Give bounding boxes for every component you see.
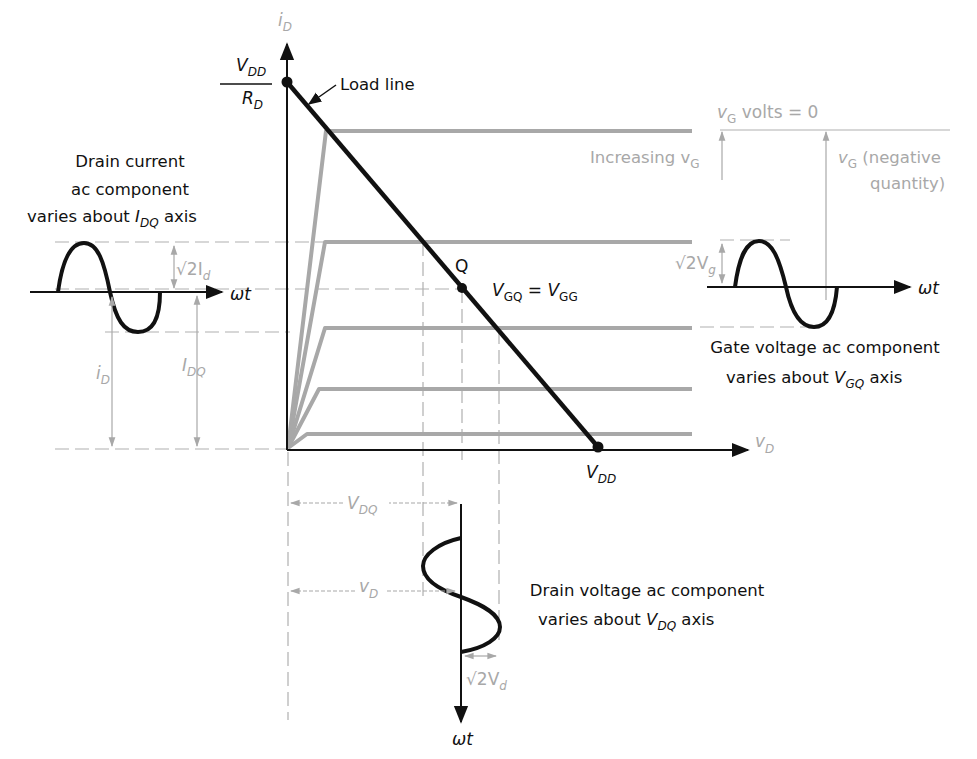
increasing-vg-label: Increasing vG (590, 148, 700, 171)
x-axis-label: vD (755, 431, 774, 456)
svg-text:iD: iD (96, 363, 110, 387)
curve-vg-4 (288, 434, 692, 448)
svg-text:vG volts = 0: vG volts = 0 (717, 102, 818, 126)
svg-text:ωt: ωt (230, 284, 252, 304)
y-axis-label: iD (278, 10, 292, 34)
svg-text:ωt: ωt (918, 278, 940, 298)
gate-voltage-waveform: ωt √2Vg Gate voltage ac component varies… (675, 241, 940, 391)
svg-text:varies about IDQ axis: varies about IDQ axis (27, 207, 197, 230)
drain-voltage-waveform: ωt VDQ vD √2Vd Drain voltage ac componen… (291, 490, 765, 749)
drain-current-sine (58, 243, 160, 332)
q-point-equation: VGQ = VGG (492, 280, 578, 304)
svg-text:Drain current: Drain current (75, 152, 185, 171)
svg-text:varies about VGQ axis: varies about VGQ axis (726, 368, 902, 391)
svg-text:varies about VDQ axis: varies about VDQ axis (538, 610, 714, 633)
svg-text:Drain voltage ac component: Drain voltage ac component (530, 581, 765, 600)
svg-text:ac component: ac component (71, 180, 189, 199)
vg-negative-label: vG (negative (838, 148, 941, 171)
curve-vg-1 (288, 242, 692, 448)
svg-text:√2Vg: √2Vg (675, 253, 716, 277)
svg-text:ωt: ωt (452, 729, 474, 749)
svg-text:√2Id: √2Id (176, 259, 211, 283)
load-line-y-intercept-dot (282, 77, 293, 88)
svg-text:Gate voltage ac component: Gate voltage ac component (710, 338, 940, 357)
svg-text:quantity): quantity) (870, 174, 945, 193)
svg-text:IDQ: IDQ (182, 355, 206, 379)
gate-voltage-sine (735, 241, 837, 327)
y-intercept-label: VDD RD (220, 55, 272, 112)
svg-text:√2Vd: √2Vd (466, 669, 507, 693)
svg-text:RD: RD (242, 88, 263, 112)
drain-current-waveform: Drain current ac component varies about … (27, 152, 252, 446)
q-point-label: Q (455, 256, 468, 276)
svg-text:VDD: VDD (236, 55, 266, 79)
load-line-label: Load line (340, 75, 415, 94)
fet-load-line-diagram: iD vD VDD RD VDD Load line Q VGQ = VGG v… (0, 0, 977, 759)
load-line (287, 82, 598, 447)
q-point-dot (457, 283, 467, 293)
load-line-pointer (309, 85, 336, 104)
curve-vg-3 (288, 389, 692, 448)
x-intercept-label: VDD (586, 462, 616, 486)
load-line-x-intercept-dot (593, 442, 604, 453)
projection-lines (55, 240, 810, 720)
